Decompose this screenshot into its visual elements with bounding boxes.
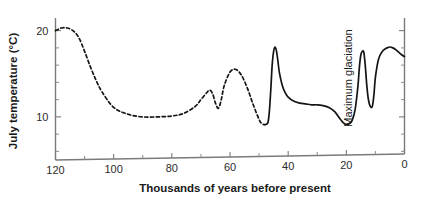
- x-axis-tick-labels: 120100806040200: [46, 158, 407, 176]
- x-tick-label: 60: [224, 161, 236, 173]
- y-axis-tick-labels: 1020: [36, 25, 48, 123]
- temperature-curve-solid: [265, 47, 405, 125]
- temperature-curve-dashed: [56, 28, 265, 125]
- maximum-glaciation-annotation: Maximum glaciation: [342, 29, 354, 126]
- x-tick-label: 120: [46, 164, 64, 176]
- y-tick-label: 10: [36, 111, 48, 123]
- x-tick-label: 80: [166, 162, 178, 174]
- chart-annotations: Maximum glaciation: [342, 29, 354, 126]
- x-tick-label: 0: [401, 158, 407, 170]
- x-axis-title: Thousands of years before present: [139, 182, 331, 194]
- temperature-line-chart: 1020 120100806040200 Maximum glaciation …: [0, 0, 429, 201]
- x-tick-label: 40: [282, 160, 294, 172]
- x-tick-label: 20: [340, 159, 352, 171]
- x-tick-label: 100: [104, 163, 122, 175]
- chart-figure: 1020 120100806040200 Maximum glaciation …: [0, 0, 429, 201]
- y-tick-label: 20: [36, 25, 48, 37]
- y-axis-title: July temperature (°C): [7, 33, 19, 150]
